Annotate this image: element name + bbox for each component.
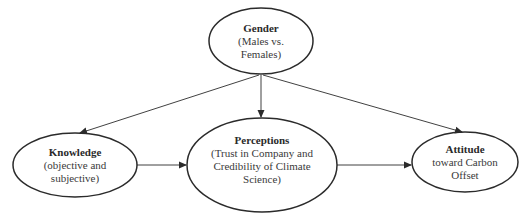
node-attitude: Attitude toward Carbon Offset [415, 136, 515, 188]
node-gender: Gender (Males vs. Females) [211, 14, 311, 68]
edge-gender-knowledge [80, 75, 259, 133]
node-knowledge: Knowledge (objective and subjective) [20, 139, 130, 191]
node-knowledge-desc-2: subjective) [51, 172, 99, 185]
node-knowledge-desc-1: (objective and [44, 159, 107, 172]
edge-gender-attitude [263, 75, 462, 132]
node-perceptions-desc-3: Science) [243, 173, 281, 186]
node-attitude-desc-1: toward Carbon [432, 156, 498, 169]
node-perceptions-desc-1: (Trust in Company and [211, 147, 313, 160]
node-gender-desc-1: (Males vs. [238, 35, 284, 48]
node-attitude-title: Attitude [445, 143, 484, 156]
node-attitude-desc-2: Offset [451, 169, 478, 182]
node-perceptions-desc-2: Credibility of Climate [213, 160, 310, 173]
node-gender-title: Gender [243, 22, 278, 35]
node-gender-desc-2: Females) [241, 48, 281, 61]
node-knowledge-title: Knowledge [49, 146, 102, 159]
node-perceptions: Perceptions (Trust in Company and Credib… [192, 127, 332, 193]
node-perceptions-title: Perceptions [235, 134, 290, 147]
